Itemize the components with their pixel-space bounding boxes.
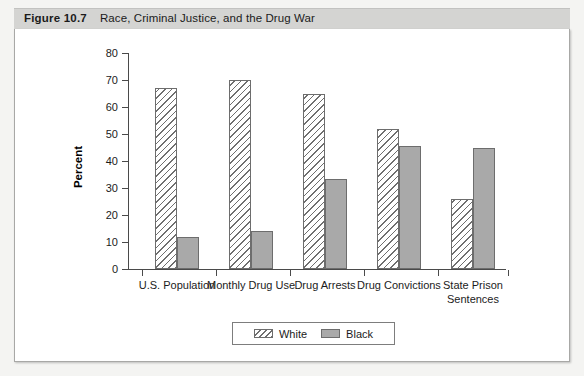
bar-white — [303, 94, 325, 270]
y-axis-tick — [122, 80, 128, 81]
y-axis-tick-label: 10 — [78, 236, 118, 248]
x-axis-tick — [438, 270, 439, 276]
y-axis-tick — [122, 242, 128, 243]
y-axis-tick-label: 50 — [78, 128, 118, 140]
y-axis-tick — [122, 269, 128, 270]
chart-panel: Percent 01020304050607080 U.S. Populatio… — [14, 29, 570, 362]
y-axis-tick — [122, 161, 128, 162]
y-axis-tick — [122, 107, 128, 108]
bar-white — [377, 129, 399, 269]
x-axis-tick — [364, 270, 365, 276]
y-axis-tick-label: 30 — [78, 182, 118, 194]
figure-header-bar: Figure 10.7Race, Criminal Justice, and t… — [14, 8, 570, 30]
y-axis-tick — [122, 53, 128, 54]
y-axis-tick — [122, 134, 128, 135]
bar-black — [251, 231, 273, 269]
legend-label: White — [279, 328, 307, 340]
y-axis-line — [128, 53, 129, 270]
legend-item: Black — [321, 328, 373, 340]
chart-legend: WhiteBlack — [232, 322, 395, 345]
bar-black — [177, 237, 199, 269]
x-axis-tick — [142, 270, 143, 276]
y-axis-tick-label: 80 — [78, 47, 118, 59]
figure-title: Race, Criminal Justice, and the Drug War — [100, 12, 315, 24]
x-axis-tick — [508, 270, 509, 276]
x-axis-line — [128, 269, 506, 270]
figure-caption: Figure 10.7Race, Criminal Justice, and t… — [24, 12, 315, 24]
y-axis-tick-label: 60 — [78, 101, 118, 113]
bar-white — [155, 88, 177, 269]
y-axis-tick-label: 20 — [78, 209, 118, 221]
bar-black — [325, 179, 347, 269]
bar-chart-plot: Percent 01020304050607080 U.S. Populatio… — [15, 29, 569, 361]
legend-items: WhiteBlack — [233, 323, 394, 344]
y-axis-tick — [122, 215, 128, 216]
x-axis-category-label: State Prison Sentences — [421, 279, 525, 306]
legend-item: White — [254, 328, 307, 340]
hatched-diagonal-swatch — [254, 329, 273, 338]
solid-gray-swatch — [321, 329, 340, 338]
bar-black — [399, 146, 421, 269]
legend-label: Black — [346, 328, 373, 340]
figure-container: Figure 10.7Race, Criminal Justice, and t… — [0, 0, 584, 376]
x-axis-tick — [216, 270, 217, 276]
y-axis-tick-label: 70 — [78, 74, 118, 86]
y-axis-tick — [122, 188, 128, 189]
y-axis-tick-label: 40 — [78, 155, 118, 167]
bar-white — [229, 80, 251, 269]
x-axis-tick — [290, 270, 291, 276]
bar-white — [451, 199, 473, 269]
bar-black — [473, 148, 495, 270]
y-axis-tick-label: 0 — [78, 263, 118, 275]
figure-number: Figure 10.7 — [24, 12, 87, 24]
